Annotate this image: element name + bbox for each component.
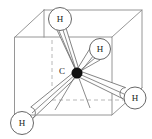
atom-h-top: H bbox=[49, 8, 72, 31]
atom-h-lower-left-label: H bbox=[19, 118, 26, 128]
cube-edge-connect-top-left bbox=[15, 10, 44, 37]
molecular-geometry-figure: H H H H C bbox=[0, 0, 152, 139]
cube-edge-connect-top-right bbox=[112, 10, 142, 37]
bond-guide-line-5 bbox=[32, 73, 77, 113]
atom-h-upper-right-label: H bbox=[97, 44, 104, 54]
bond-c-h-lower-left bbox=[31, 71, 77, 119]
bond-c-h-lower-right bbox=[77, 70, 125, 99]
atom-h-lower-right-label: H bbox=[132, 93, 139, 103]
atom-carbon-nucleus bbox=[72, 68, 82, 78]
atom-carbon-label: C bbox=[59, 66, 65, 76]
bond-guide-line-2 bbox=[63, 30, 77, 73]
atom-h-top-label: H bbox=[57, 14, 64, 24]
atom-h-upper-right: H bbox=[90, 39, 111, 60]
atom-h-lower-left: H bbox=[11, 112, 34, 135]
cube-tetrahedron-svg: H H H H C bbox=[0, 0, 152, 139]
atom-h-lower-right: H bbox=[124, 87, 146, 109]
